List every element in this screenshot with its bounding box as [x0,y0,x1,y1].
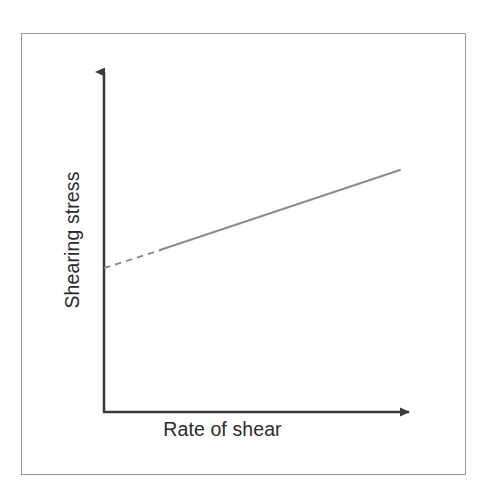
flow-curve-dashed-segment [104,250,161,268]
flow-curve-solid-segment [160,170,400,250]
x-axis-label: Rate of shear [0,418,465,441]
figure-root: Shearing stress Rate of shear [0,0,485,501]
y-axis-label: Shearing stress [61,172,84,309]
